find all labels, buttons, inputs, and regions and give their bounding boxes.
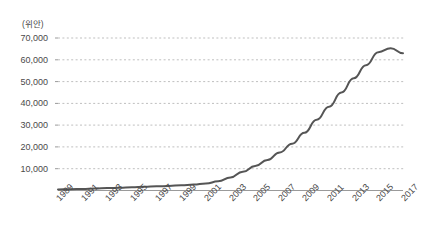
y-axis-tick-label: 40,000 [0, 98, 48, 108]
gridlines [58, 38, 405, 169]
y-axis-tick-label: 30,000 [0, 120, 48, 130]
y-axis-tick-label: 50,000 [0, 77, 48, 87]
y-axis-ticks [55, 38, 58, 169]
line-chart: (위안) 70,00060,00050,00040,00030,00020,00… [0, 0, 424, 242]
y-axis-tick-label: 10,000 [0, 164, 48, 174]
chart-canvas [0, 0, 424, 242]
y-axis-tick-label: 20,000 [0, 142, 48, 152]
y-axis-tick-label: 60,000 [0, 55, 48, 65]
y-axis-tick-label: 70,000 [0, 33, 48, 43]
